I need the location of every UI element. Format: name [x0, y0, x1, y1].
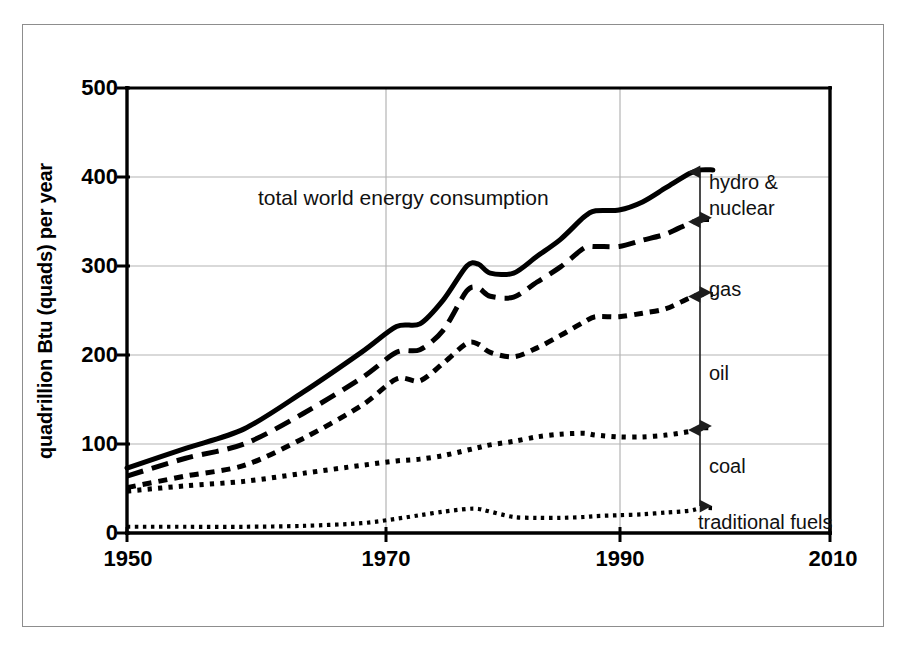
annotation-hydro-nuclear-line2: nuclear: [709, 197, 775, 220]
annotation-coal: coal: [709, 455, 746, 478]
annotation-oil: oil: [709, 362, 729, 385]
data-series-layer: [127, 170, 713, 527]
series-line-4: [127, 508, 713, 527]
annotation-total-world-energy-consumption: total world energy consumption: [258, 186, 549, 210]
figure-canvas: quadrillion Btu (quads) per year 500 400…: [0, 0, 904, 657]
annotation-gas: gas: [709, 278, 741, 301]
series-line-0: [127, 170, 713, 468]
annotation-hydro-nuclear-line1: hydro &: [709, 171, 778, 194]
grid-vertical: [386, 88, 620, 533]
annotation-traditional-fuels: traditional fuels: [698, 511, 833, 534]
chart-plot-area: [0, 0, 904, 657]
